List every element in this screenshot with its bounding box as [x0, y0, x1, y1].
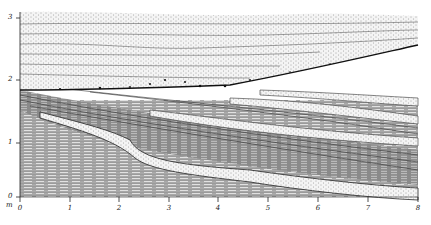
cross-section-figure: 3 2 1 0 m 0 1 2 3 4 5 6 7 8: [0, 0, 431, 225]
x-tick-6: 6: [316, 205, 320, 212]
units-label: m: [6, 202, 13, 209]
y-tick-3: 3: [8, 14, 12, 21]
x-tick-0: 0: [18, 205, 22, 212]
y-tick-1: 1: [8, 139, 12, 146]
x-tick-5: 5: [266, 205, 270, 212]
y-tick-0: 0: [8, 193, 12, 200]
x-tick-7: 7: [366, 205, 370, 212]
x-tick-4: 4: [216, 205, 220, 212]
x-tick-3: 3: [167, 205, 171, 212]
x-tick-1: 1: [68, 205, 72, 212]
cross-section-drawing: [0, 0, 431, 225]
y-tick-2: 2: [8, 76, 12, 83]
y-axis-ticks: [16, 18, 20, 197]
x-axis-ticks: [20, 197, 418, 202]
x-tick-2: 2: [117, 205, 121, 212]
x-tick-8: 8: [416, 205, 420, 212]
